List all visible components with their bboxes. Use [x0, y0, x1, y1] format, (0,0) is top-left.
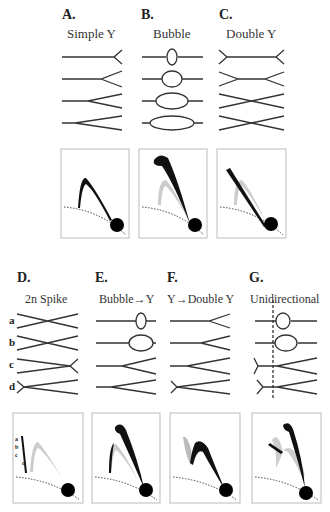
inset-label-c: c [15, 451, 25, 459]
panel-d-inset-labels: a b c d [15, 435, 25, 467]
2n-spike-schematics [17, 314, 78, 394]
y-to-double-y-schematics [170, 314, 230, 394]
inset-label-b: b [15, 443, 25, 451]
schematic-drawings [0, 0, 330, 512]
inset-label-d: d [22, 459, 25, 467]
simple-y-schematics [62, 50, 122, 130]
bubble-schematics [142, 49, 203, 130]
inset-label-a: a [15, 435, 25, 443]
bubble-to-y-schematics [96, 313, 156, 394]
unidirectional-schematics [254, 300, 317, 400]
double-y-schematics [219, 50, 284, 130]
